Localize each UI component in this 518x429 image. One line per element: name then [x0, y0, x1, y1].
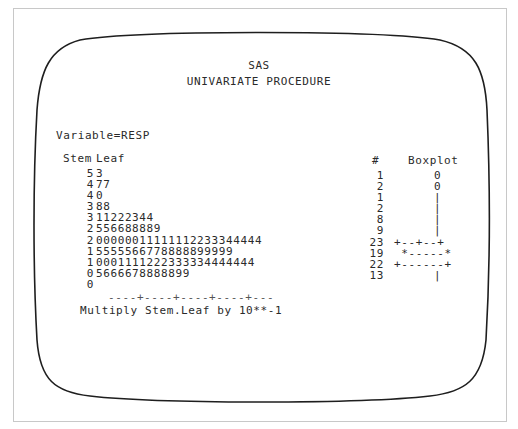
count-value: 9 [362, 225, 384, 236]
stem-value: 2 [80, 223, 94, 234]
stem-value: 0 [80, 279, 94, 290]
count-value: 13 [362, 270, 384, 281]
leaf-header: Leaf [96, 153, 125, 164]
leaf-value: 5666678888899 [96, 268, 190, 279]
multiplier-footnote: Multiply Stem.Leaf by 10**-1 [80, 305, 282, 316]
leaf-axis-ruler: ----+----+----+----+--- [108, 292, 274, 303]
sas-title: SAS [0, 60, 518, 71]
leaf-value: 556688889 [96, 223, 161, 234]
procedure-title: UNIVARIATE PROCEDURE [0, 76, 518, 87]
stem-header: Stem [63, 153, 92, 164]
count-header: # [372, 155, 379, 166]
boxplot-header: Boxplot [408, 155, 459, 166]
boxplot-segment: | [398, 270, 441, 281]
boxplot-segment: | [398, 225, 441, 236]
variable-label: Variable=RESP [56, 130, 150, 141]
